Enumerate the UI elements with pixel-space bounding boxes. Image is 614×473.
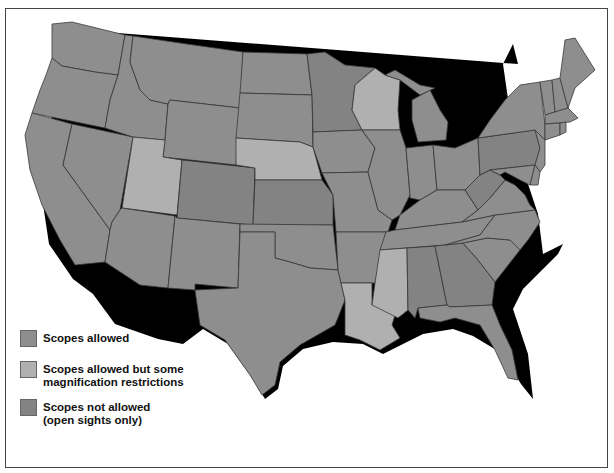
legend-item-scopes-allowed: Scopes allowed bbox=[20, 330, 220, 347]
state-maine bbox=[560, 38, 595, 108]
state-iowa bbox=[313, 130, 375, 173]
legend-label: Scopes allowed bbox=[43, 332, 129, 345]
legend: Scopes allowed Scopes allowed but some m… bbox=[20, 330, 220, 437]
state-wyoming bbox=[163, 100, 240, 165]
state-rhode-island bbox=[560, 122, 566, 135]
state-connecticut bbox=[545, 123, 560, 140]
state-new-mexico bbox=[168, 216, 240, 290]
legend-item-scopes-restricted: Scopes allowed but some magnification re… bbox=[20, 361, 220, 389]
legend-label: Scopes not allowed (open sights only) bbox=[43, 401, 150, 427]
legend-item-scopes-not-allowed: Scopes not allowed (open sights only) bbox=[20, 399, 220, 427]
legend-swatch-scopes-restricted bbox=[20, 361, 37, 378]
state-colorado bbox=[177, 160, 255, 225]
state-kansas bbox=[253, 180, 333, 225]
legend-swatch-scopes-not-allowed bbox=[20, 399, 37, 416]
legend-swatch-scopes-allowed bbox=[20, 330, 37, 347]
legend-label: Scopes allowed but some magnification re… bbox=[43, 363, 184, 389]
state-indiana bbox=[406, 145, 437, 200]
state-north-dakota bbox=[240, 52, 312, 95]
